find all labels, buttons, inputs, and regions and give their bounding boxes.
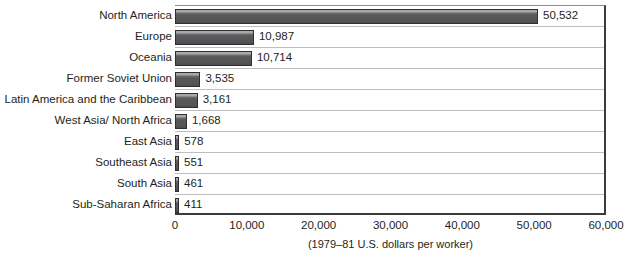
bar-row: 10,987 <box>175 27 604 48</box>
bar <box>175 72 200 87</box>
category-label: Former Soviet Union <box>0 68 172 89</box>
category-label: Europe <box>0 26 172 47</box>
category-label: North America <box>0 5 172 26</box>
bar-row: 50,532 <box>175 6 604 27</box>
bar-value-label: 551 <box>184 155 203 170</box>
bar-value-label: 10,987 <box>259 29 294 44</box>
bar <box>175 198 179 213</box>
plot-area: 50,53210,98710,7143,5353,1611,6685785514… <box>175 5 606 215</box>
bar-value-label: 461 <box>184 176 203 191</box>
bar-row: 461 <box>175 174 604 195</box>
bar-value-label: 1,668 <box>192 113 221 128</box>
x-tick-label: 40,000 <box>445 218 480 232</box>
bar-value-label: 3,161 <box>203 92 232 107</box>
x-axis-tick-labels: 010,00020,00030,00040,00050,00060,000 <box>175 218 606 234</box>
bar-value-label: 578 <box>184 134 203 149</box>
bar <box>175 30 254 45</box>
x-tick-label: 60,000 <box>588 218 623 232</box>
bar-chart: North AmericaEuropeOceaniaFormer Soviet … <box>0 0 637 263</box>
bar-row: 3,535 <box>175 69 604 90</box>
category-label: Oceania <box>0 47 172 68</box>
category-label: Sub-Saharan Africa <box>0 194 172 215</box>
x-tick-label: 30,000 <box>373 218 408 232</box>
bar-row: 411 <box>175 195 604 216</box>
category-label: West Asia/ North Africa <box>0 110 172 131</box>
category-label: Southeast Asia <box>0 152 172 173</box>
bar <box>175 156 179 171</box>
bar <box>175 9 538 24</box>
bar-row: 578 <box>175 132 604 153</box>
bar <box>175 177 179 192</box>
category-label: Latin America and the Caribbean <box>0 89 172 110</box>
bar-row: 551 <box>175 153 604 174</box>
bar <box>175 114 187 129</box>
bar-value-label: 411 <box>184 197 202 212</box>
category-axis-labels: North AmericaEuropeOceaniaFormer Soviet … <box>0 5 172 215</box>
x-tick-label: 0 <box>172 218 178 232</box>
x-axis-caption: (1979–81 U.S. dollars per worker) <box>175 237 606 251</box>
category-label: South Asia <box>0 173 172 194</box>
bar-row: 1,668 <box>175 111 604 132</box>
bar-row: 10,714 <box>175 48 604 69</box>
bar <box>175 135 179 150</box>
bar <box>175 93 198 108</box>
bar-value-label: 10,714 <box>257 50 292 65</box>
bar-value-label: 3,535 <box>205 71 234 86</box>
bar-row: 3,161 <box>175 90 604 111</box>
x-tick-label: 10,000 <box>229 218 264 232</box>
bar-value-label: 50,532 <box>543 8 578 23</box>
x-tick-label: 50,000 <box>517 218 552 232</box>
category-label: East Asia <box>0 131 172 152</box>
x-tick-label: 20,000 <box>301 218 336 232</box>
bar <box>175 51 252 66</box>
